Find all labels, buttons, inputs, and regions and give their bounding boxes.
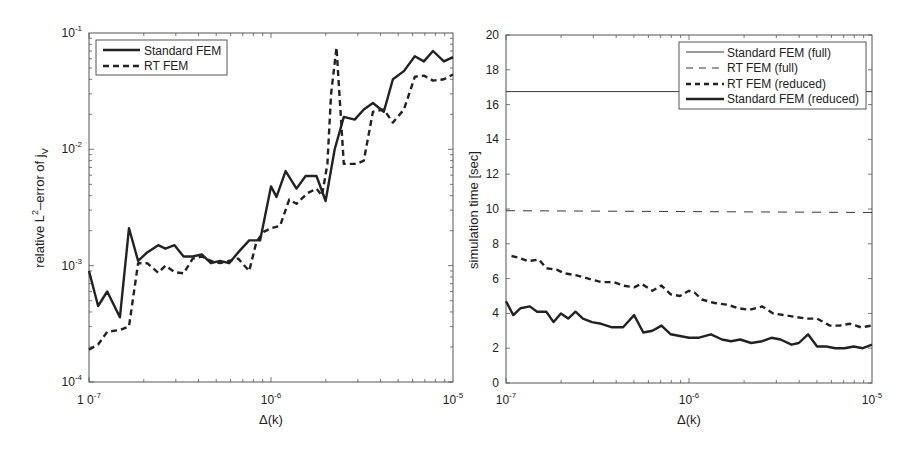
legend-label: Standard FEM (full) <box>727 46 831 60</box>
tick-label: 10-1 <box>62 24 83 40</box>
left-chart: 1 0-710-610-510-110-210-310-4 Δ(k) relat… <box>30 24 464 427</box>
right-chart: 10-710-610-502468101214161820 Δ(k) simul… <box>466 28 883 427</box>
left-x-axis-label: Δ(k) <box>259 412 283 427</box>
legend-label: RT FEM (full) <box>727 61 798 75</box>
tick-label: 8 <box>492 237 499 251</box>
tick-label: 18 <box>486 63 500 77</box>
legend-label: Standard FEM <box>144 44 221 58</box>
left-plot-frame <box>89 33 453 382</box>
right-y-axis-label: simulation time [sec] <box>466 151 481 269</box>
tick-label: 10 <box>486 202 500 216</box>
tick-label: 10-3 <box>62 257 83 273</box>
tick-label: 4 <box>492 306 499 320</box>
legend-label: RT FEM <box>144 59 188 73</box>
tick-label: 10-6 <box>679 391 700 407</box>
legend-label: RT FEM (reduced) <box>727 77 826 91</box>
tick-label: 10-5 <box>862 391 883 407</box>
figure: 1 0-710-610-510-110-210-310-4 Δ(k) relat… <box>0 0 902 450</box>
tick-label: 6 <box>492 272 499 286</box>
legend-label: Standard FEM (reduced) <box>727 92 859 106</box>
tick-label: 10-4 <box>62 373 83 389</box>
right-legend: Standard FEM (full) RT FEM (full) RT FEM… <box>679 42 866 109</box>
tick-label: 16 <box>486 98 500 112</box>
tick-label: 10-7 <box>496 391 517 407</box>
tick-label: 12 <box>486 167 500 181</box>
tick-label: 14 <box>486 132 500 146</box>
figure-canvas: 1 0-710-610-510-110-210-310-4 Δ(k) relat… <box>0 0 902 450</box>
tick-label: 1 0-7 <box>77 391 101 407</box>
tick-label: 10-5 <box>443 391 464 407</box>
right-x-axis-label: Δ(k) <box>677 412 701 427</box>
tick-label: 10-2 <box>62 140 83 156</box>
tick-label: 10-6 <box>261 391 282 407</box>
left-y-axis-label: relative L2–error of jV <box>30 148 50 267</box>
tick-label: 0 <box>492 376 499 390</box>
left-legend: Standard FEM RT FEM <box>96 40 227 75</box>
tick-label: 2 <box>492 341 499 355</box>
tick-label: 20 <box>486 28 500 42</box>
